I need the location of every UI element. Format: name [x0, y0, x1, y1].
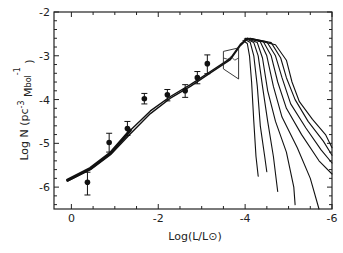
plot-frame: [54, 12, 332, 209]
series-line-cooling-curve-5: [247, 38, 319, 209]
y-axis-title: Log N (pc-3 Mbol-1 ): [13, 59, 36, 160]
x-tick-label: -2: [153, 212, 164, 225]
series-line-cooling-curve-1: [243, 41, 258, 177]
x-tick-labels: 0-2-4-6: [68, 212, 338, 225]
data-point: [106, 133, 112, 152]
series-line-model-main-upper: [68, 38, 248, 180]
x-tick-label: -4: [240, 212, 251, 225]
model-curves: [68, 38, 333, 209]
x-axis-title: Log(L/L⊙): [168, 230, 221, 243]
y-tick-label: -3: [39, 50, 50, 63]
y-tick-label: -5: [39, 137, 50, 150]
luminosity-function-chart: 0-2-4-6 -2-3-4-5-6 Log(L/L⊙) Log N (pc-3…: [0, 0, 343, 253]
axis-ticks: [54, 12, 332, 209]
series-line-cooling-curve-6: [248, 38, 332, 174]
data-point: [141, 93, 147, 104]
series-line-model-main-lower: [68, 39, 248, 181]
x-tick-label: 0: [68, 212, 75, 225]
data-point: [84, 172, 90, 195]
observed-data-points: [84, 55, 210, 195]
y-tick-labels: -2-3-4-5-6: [39, 6, 50, 194]
data-point: [204, 55, 210, 74]
y-tick-label: -6: [39, 181, 50, 194]
x-tick-label: -6: [327, 212, 338, 225]
y-tick-label: -2: [39, 6, 50, 19]
series-line-main-thick: [68, 130, 131, 180]
y-tick-label: -4: [39, 94, 50, 107]
